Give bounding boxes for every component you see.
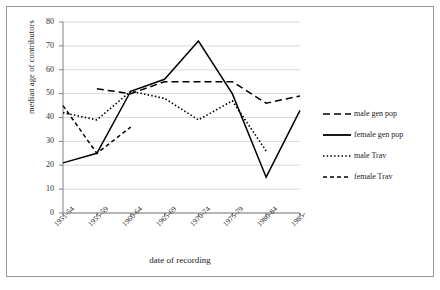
legend-key-long-dash-icon (322, 109, 352, 119)
legend-key-dotted-icon (322, 151, 352, 161)
y-tick-50: 50 (28, 88, 54, 97)
legend-item-female-gen-pop: female gen pop (322, 124, 434, 145)
legend-key-short-dash-icon (322, 172, 352, 182)
y-tick-10: 10 (28, 184, 54, 193)
x-axis-title: date of recording (60, 255, 300, 265)
y-tick-20: 20 (28, 160, 54, 169)
legend-item-male-gen-pop: male gen pop (322, 103, 434, 124)
chart-figure: .gl { stroke: #d9d9d9; stroke-width: 1; … (0, 0, 440, 290)
legend-item-male-trav: male Trav (322, 145, 434, 166)
chart-legend: male gen pop female gen pop male Trav fe… (322, 103, 434, 187)
series-line-female-trav (63, 106, 131, 154)
legend-label-male-trav: male Trav (352, 151, 386, 160)
legend-label-male-gen-pop: male gen pop (352, 109, 397, 118)
y-tick-60: 60 (28, 65, 54, 74)
y-tick-80: 80 (28, 17, 54, 26)
legend-key-solid-icon (322, 130, 352, 140)
y-tick-40: 40 (28, 112, 54, 121)
legend-item-female-trav: female Trav (322, 166, 434, 187)
data-series-layer (63, 41, 300, 177)
y-tick-70: 70 (28, 41, 54, 50)
axis-ticks (59, 22, 300, 217)
y-tick-30: 30 (28, 136, 54, 145)
series-line-male-gen-pop (97, 82, 300, 103)
y-tick-0: 0 (28, 208, 54, 217)
legend-label-female-trav: female Trav (352, 172, 392, 181)
legend-label-female-gen-pop: female gen pop (352, 130, 403, 139)
